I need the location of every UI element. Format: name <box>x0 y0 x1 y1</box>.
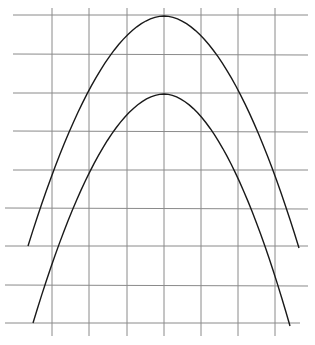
vertical-grid-lines <box>52 8 275 336</box>
inner-arch-curve <box>33 94 290 326</box>
grid-line-horizontal <box>5 285 308 286</box>
horizontal-grid-lines <box>5 15 308 323</box>
arch-grid-diagram <box>0 0 315 345</box>
grid-line-horizontal <box>13 54 308 55</box>
grid-line-horizontal <box>13 131 308 132</box>
grid-line-horizontal <box>5 208 308 209</box>
